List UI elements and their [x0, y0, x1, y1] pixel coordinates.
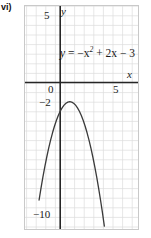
x-tick-label-5: 5: [113, 84, 119, 95]
graph-plot-area: [24, 5, 139, 230]
origin-label: 0: [48, 84, 54, 95]
parabola-curve: [25, 6, 138, 229]
y-tick-label-neg10: −10: [33, 209, 50, 220]
y-tick-label-neg2: −2: [39, 97, 51, 108]
x-axis-label: x: [127, 69, 132, 80]
part-label: vi): [1, 2, 12, 12]
graph-figure: vi): [0, 0, 151, 238]
equation-lhs: y: [60, 47, 65, 59]
equation-term3: − 3: [120, 47, 135, 59]
equation-annotation: y = −x2 + 2x − 3: [60, 45, 135, 59]
y-axis-label: y: [61, 6, 66, 17]
equation-term2: + 2x: [96, 47, 117, 59]
equation-equals: =: [68, 47, 75, 59]
equation-exponent: 2: [90, 45, 94, 54]
equation-term1: −x: [77, 47, 89, 59]
y-tick-label-5: 5: [44, 10, 50, 21]
